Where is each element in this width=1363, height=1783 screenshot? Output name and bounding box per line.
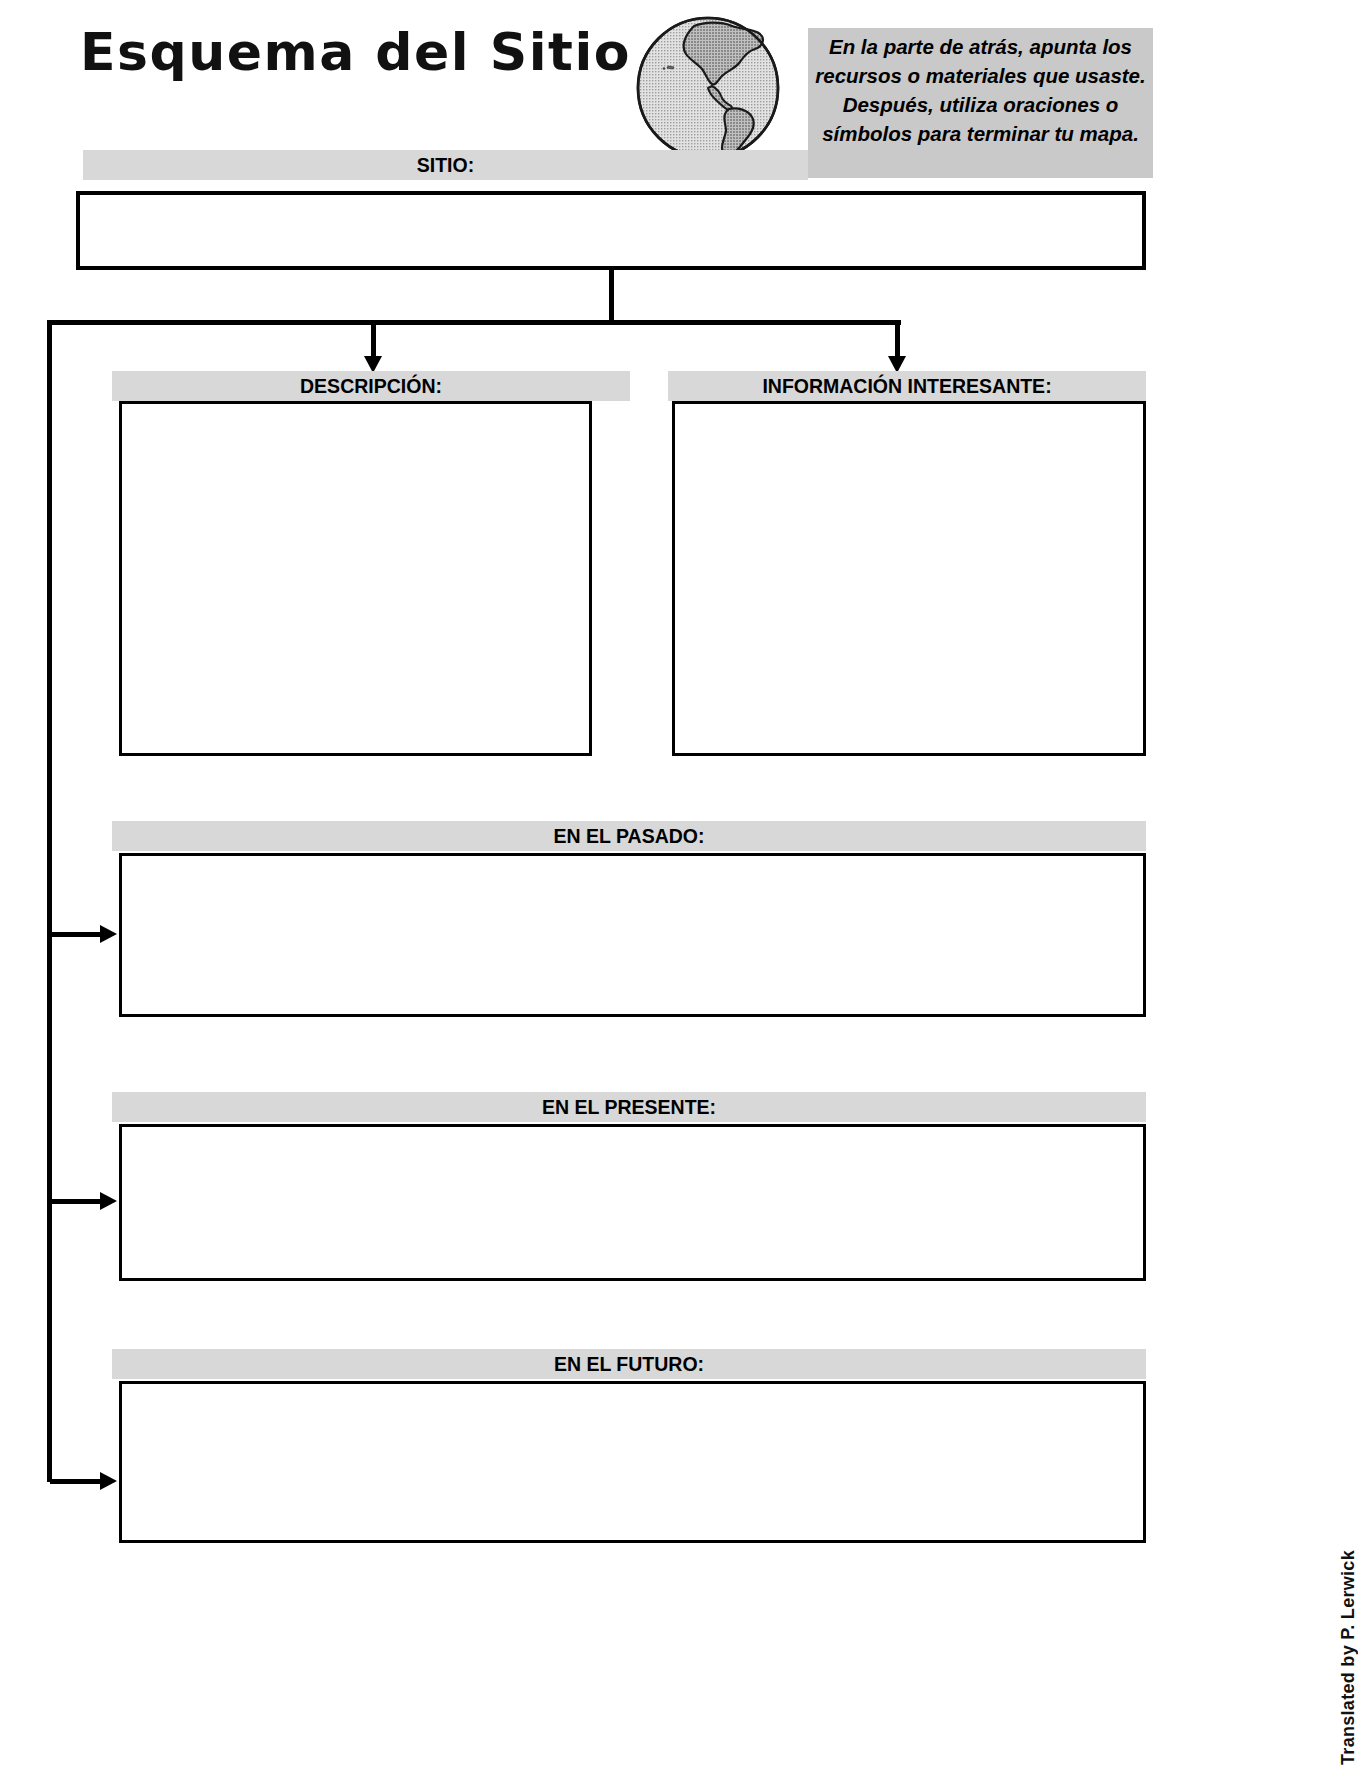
label-sitio: SITIO: [83, 150, 808, 180]
connector-informacion-vertical [895, 320, 900, 360]
label-descripcion: DESCRIPCIÓN: [112, 371, 630, 401]
instruction-note: En la parte de atrás, apunta los recurso… [808, 28, 1153, 178]
globe-americas-icon [634, 14, 782, 162]
arrow-right-pasado [100, 925, 117, 943]
label-en-el-pasado: EN EL PASADO: [112, 821, 1146, 851]
field-sitio[interactable] [76, 191, 1146, 270]
connector-left-spine [47, 320, 52, 1482]
field-en-el-pasado[interactable] [119, 853, 1146, 1017]
field-en-el-futuro[interactable] [119, 1381, 1146, 1543]
label-informacion-interesante: INFORMACIÓN INTERESANTE: [668, 371, 1146, 401]
field-en-el-presente[interactable] [119, 1124, 1146, 1281]
connector-futuro-horizontal [50, 1479, 102, 1484]
worksheet-page: Esquema del Sitio [0, 0, 1363, 1783]
label-en-el-futuro: EN EL FUTURO: [112, 1349, 1146, 1379]
field-descripcion[interactable] [119, 401, 592, 756]
connector-trunk-vertical [609, 270, 614, 323]
field-informacion-interesante[interactable] [672, 401, 1146, 756]
arrow-right-presente [100, 1192, 117, 1210]
label-en-el-presente: EN EL PRESENTE: [112, 1092, 1146, 1122]
connector-distribution-horizontal [47, 320, 901, 325]
connector-pasado-horizontal [50, 932, 102, 937]
page-title: Esquema del Sitio [80, 22, 631, 82]
translation-credit: Translated by P. Lerwick [1338, 1550, 1359, 1765]
connector-presente-horizontal [50, 1199, 102, 1204]
arrow-right-futuro [100, 1472, 117, 1490]
connector-descripcion-vertical [371, 320, 376, 360]
